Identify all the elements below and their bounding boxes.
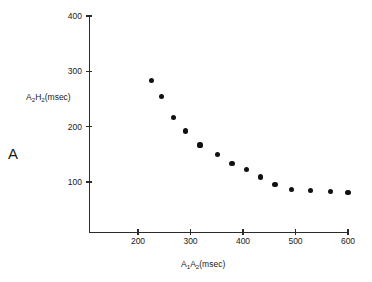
y-tick-100	[86, 181, 92, 182]
x-tick-500	[295, 229, 296, 235]
figure-panel-a: A 100200300400 200300400500600 A2H2(msec…	[0, 0, 372, 282]
data-point	[215, 152, 220, 157]
data-point	[229, 161, 234, 166]
data-point	[345, 190, 350, 195]
data-point	[149, 78, 154, 83]
y-tick-300	[86, 71, 92, 72]
x-tick-label-500: 500	[281, 236, 311, 246]
x-tick-label-300: 300	[176, 236, 206, 246]
y-tick-label-300: 300	[52, 66, 82, 76]
x-tick-label-200: 200	[123, 236, 153, 246]
data-point	[289, 187, 294, 192]
x-axis-title: A1A2(msec)	[181, 259, 225, 269]
y-tick-label-100: 100	[52, 177, 82, 187]
y-tick-200	[86, 126, 92, 127]
y-axis-title: A2H2(msec)	[26, 92, 71, 102]
data-point	[159, 94, 164, 99]
data-point	[328, 189, 333, 194]
x-tick-label-600: 600	[333, 236, 363, 246]
scatter-plot: 100200300400 200300400500600 A2H2(msec) …	[0, 0, 372, 282]
data-point	[308, 188, 313, 193]
x-tick-label-400: 400	[228, 236, 258, 246]
y-tick-label-200: 200	[52, 122, 82, 132]
y-tick-400	[86, 15, 92, 16]
x-tick-600	[347, 229, 348, 235]
y-tick-label-400: 400	[52, 11, 82, 21]
data-point	[197, 142, 202, 147]
x-tick-200	[137, 229, 138, 235]
x-tick-400	[242, 229, 243, 235]
data-point	[183, 128, 188, 133]
y-axis-line	[89, 16, 90, 233]
data-point	[171, 115, 176, 120]
data-point	[258, 174, 263, 179]
data-point	[272, 182, 277, 187]
data-point	[244, 167, 249, 172]
x-axis-line	[89, 232, 349, 233]
x-tick-300	[190, 229, 191, 235]
